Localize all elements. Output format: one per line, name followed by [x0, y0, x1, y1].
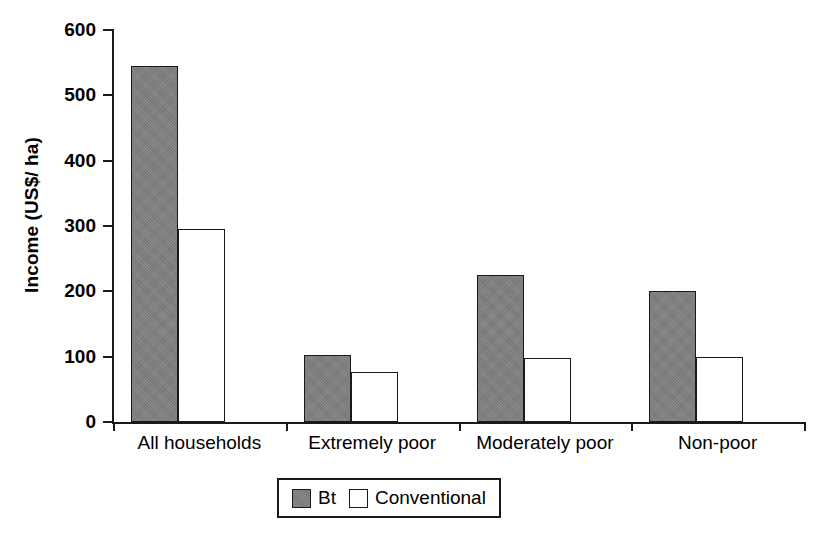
y-axis-tick-label: 300	[40, 215, 96, 237]
y-axis-tick	[103, 29, 113, 31]
y-axis-tick	[103, 356, 113, 358]
x-axis-tick	[459, 422, 461, 431]
chart-legend: Bt Conventional	[277, 478, 501, 518]
bar-chart-figure: Income (US$/ ha) 0100200300400500600 All…	[0, 0, 816, 538]
bar-bt	[131, 66, 178, 422]
y-axis-tick-label: 500	[40, 84, 96, 106]
y-axis-tick-label: 200	[40, 280, 96, 302]
x-axis-tick	[286, 422, 288, 431]
bar-conventional	[351, 372, 398, 422]
bar-conventional	[696, 357, 743, 422]
legend-swatch-bt-icon	[292, 489, 311, 508]
x-axis-tick	[113, 422, 115, 431]
legend-swatch-conventional-icon	[349, 489, 368, 508]
x-axis-tick	[631, 422, 633, 431]
legend-entry-conventional: Conventional	[349, 487, 486, 509]
x-axis-category-label: Non-poor	[678, 432, 757, 454]
y-axis-tick-label: 0	[40, 411, 96, 433]
x-axis-category-label: All households	[138, 432, 262, 454]
y-axis-tick	[103, 225, 113, 227]
bar-bt	[477, 275, 524, 422]
bar-conventional	[524, 358, 571, 422]
bar-bt	[304, 355, 351, 422]
x-axis-category-label: Moderately poor	[476, 432, 613, 454]
legend-entry-bt: Bt	[292, 487, 336, 509]
x-axis-tick	[804, 422, 806, 431]
y-axis-tick	[103, 94, 113, 96]
bar-bt	[649, 291, 696, 422]
bar-conventional	[178, 229, 225, 422]
x-axis-category-label: Extremely poor	[308, 432, 436, 454]
y-axis-tick-label: 600	[40, 19, 96, 41]
y-axis-tick-label: 100	[40, 346, 96, 368]
legend-label-conventional: Conventional	[375, 487, 486, 509]
y-axis-tick	[103, 421, 113, 423]
y-axis-tick	[103, 290, 113, 292]
y-axis-tick-label: 400	[40, 150, 96, 172]
legend-label-bt: Bt	[318, 487, 336, 509]
y-axis-tick	[103, 160, 113, 162]
